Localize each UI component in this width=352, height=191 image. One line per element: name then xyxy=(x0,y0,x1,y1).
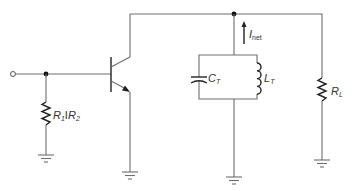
circuit-diagram: R1IR2 CT LT RL Inet xyxy=(0,0,352,191)
resistor-rl-icon xyxy=(318,78,326,160)
label-r2-main: R xyxy=(68,109,76,121)
resistor-r1r2-icon xyxy=(42,74,50,155)
label-inet: Inet xyxy=(249,29,262,41)
label-ct-sub: T xyxy=(216,78,220,85)
label-r2-sub: 2 xyxy=(76,115,80,122)
label-lt: LT xyxy=(264,73,274,85)
npn-transistor-icon xyxy=(111,14,130,172)
label-ct: CT xyxy=(208,73,220,85)
input-terminal-icon xyxy=(11,72,16,77)
label-rl-main: R xyxy=(331,85,339,97)
label-r1-main: R xyxy=(53,109,61,121)
collector-rail xyxy=(130,14,322,78)
label-ct-main: C xyxy=(208,72,216,84)
ground-icon-tank xyxy=(226,177,242,184)
label-rl: RL xyxy=(331,86,343,98)
schematic-svg xyxy=(0,0,352,191)
label-rl-sub: L xyxy=(339,91,343,98)
label-lt-sub: T xyxy=(270,78,274,85)
label-r1-r2: R1IR2 xyxy=(53,110,80,122)
ground-icon-rl xyxy=(314,160,330,167)
ground-icon-r1r2 xyxy=(38,155,54,162)
label-inet-sub: net xyxy=(252,34,262,41)
ground-icon-emitter xyxy=(122,172,138,179)
inductor-lt-icon xyxy=(257,63,261,94)
current-arrow-icon xyxy=(242,21,247,44)
